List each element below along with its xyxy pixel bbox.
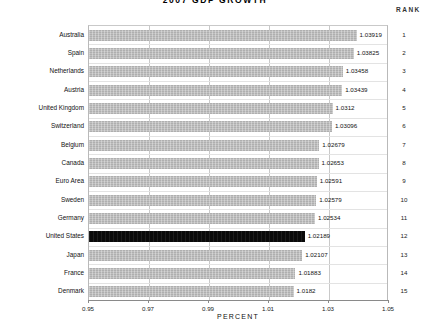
- rank-column-header: RANK: [396, 6, 421, 13]
- rank-value: 4: [389, 86, 419, 93]
- x-axis-tick-label: 1.05: [368, 305, 408, 312]
- bar-value-label: 1.0312: [336, 104, 355, 111]
- bar[interactable]: [89, 66, 343, 77]
- bar[interactable]: [89, 48, 354, 59]
- bar[interactable]: [89, 103, 333, 114]
- bar[interactable]: [89, 121, 332, 132]
- row-separator: [89, 264, 387, 265]
- bar[interactable]: [89, 231, 305, 242]
- bar[interactable]: [89, 140, 319, 151]
- row-separator: [89, 136, 387, 137]
- rank-value: 15: [389, 287, 419, 294]
- x-axis-tick-label: 0.95: [68, 305, 108, 312]
- category-label: Euro Area: [2, 177, 88, 184]
- category-label: Germany: [2, 214, 88, 221]
- bar-value-label: 1.03919: [360, 31, 382, 38]
- bar-value-label: 1.02579: [319, 196, 341, 203]
- bar[interactable]: [89, 85, 342, 96]
- bar[interactable]: [89, 195, 316, 206]
- bar-value-label: 1.02534: [318, 214, 340, 221]
- row-separator: [89, 209, 387, 210]
- row-separator: [89, 228, 387, 229]
- x-axis-tick: [88, 300, 89, 303]
- x-axis-title: PERCENT: [88, 313, 388, 320]
- category-label: Netherlands: [2, 67, 88, 74]
- rank-value: 10: [389, 196, 419, 203]
- chart-title: 2007 GDP GROWTH: [0, 0, 430, 5]
- bar[interactable]: [89, 286, 294, 297]
- category-axis-labels: AustraliaSpainNetherlandsAustriaUnited K…: [0, 25, 88, 300]
- bar[interactable]: [89, 250, 302, 261]
- row-separator: [89, 191, 387, 192]
- rank-value: 2: [389, 49, 419, 56]
- category-label: Australia: [2, 31, 88, 38]
- category-label: United States: [2, 232, 88, 239]
- gdp-growth-chart: 2007 GDP GROWTH RANK AustraliaSpainNethe…: [0, 0, 430, 324]
- bar-value-label: 1.02107: [305, 251, 327, 258]
- x-axis-tick-label: 1.03: [308, 305, 348, 312]
- bar-value-label: 1.01883: [298, 269, 320, 276]
- rank-value: 6: [389, 122, 419, 129]
- category-label: Sweden: [2, 196, 88, 203]
- rank-value: 9: [389, 177, 419, 184]
- bar-value-label: 1.0182: [297, 287, 316, 294]
- x-axis-line: [88, 300, 388, 301]
- category-label: Spain: [2, 49, 88, 56]
- bar[interactable]: [89, 30, 357, 41]
- row-separator: [89, 81, 387, 82]
- row-separator: [89, 118, 387, 119]
- category-label: Japan: [2, 251, 88, 258]
- rank-value: 12: [389, 232, 419, 239]
- rank-value: 1: [389, 31, 419, 38]
- bar-value-label: 1.02591: [320, 177, 342, 184]
- x-axis-tick-label: 0.99: [188, 305, 228, 312]
- bar[interactable]: [89, 176, 317, 187]
- category-label: Denmark: [2, 287, 88, 294]
- bar-value-label: 1.03439: [345, 86, 367, 93]
- row-separator: [89, 246, 387, 247]
- rank-value: 3: [389, 67, 419, 74]
- x-axis-tick: [148, 300, 149, 303]
- rank-value: 13: [389, 251, 419, 258]
- x-axis-tick: [268, 300, 269, 303]
- rank-value: 14: [389, 269, 419, 276]
- category-label: Austria: [2, 86, 88, 93]
- bar-value-label: 1.02653: [322, 159, 344, 166]
- row-separator: [89, 63, 387, 64]
- bar-value-label: 1.02679: [322, 141, 344, 148]
- x-axis-tick: [328, 300, 329, 303]
- bar[interactable]: [89, 158, 319, 169]
- bar-value-label: 1.03825: [357, 49, 379, 56]
- bar[interactable]: [89, 213, 315, 224]
- x-axis-tick-label: 0.97: [128, 305, 168, 312]
- category-label: Canada: [2, 159, 88, 166]
- x-axis-tick: [388, 300, 389, 303]
- x-axis-tick: [208, 300, 209, 303]
- rank-value: 8: [389, 159, 419, 166]
- bar-value-label: 1.03096: [335, 122, 357, 129]
- category-label: Belgium: [2, 141, 88, 148]
- bar-value-label: 1.02189: [308, 232, 330, 239]
- rank-column: 123456789101112131415: [389, 25, 430, 300]
- row-separator: [89, 283, 387, 284]
- category-label: Switzerland: [2, 122, 88, 129]
- rank-value: 7: [389, 141, 419, 148]
- bar[interactable]: [89, 268, 295, 279]
- bar-value-label: 1.03458: [346, 67, 368, 74]
- rank-value: 5: [389, 104, 419, 111]
- row-separator: [89, 173, 387, 174]
- row-separator: [89, 99, 387, 100]
- rank-value: 11: [389, 214, 419, 221]
- category-label: France: [2, 269, 88, 276]
- category-label: United Kingdom: [2, 104, 88, 111]
- row-separator: [89, 44, 387, 45]
- row-separator: [89, 154, 387, 155]
- x-axis-tick-label: 1.01: [248, 305, 288, 312]
